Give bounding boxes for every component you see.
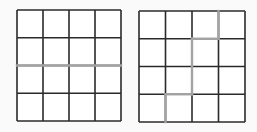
grid-cell	[43, 93, 69, 121]
grid-cell	[95, 10, 121, 38]
grid-cell	[192, 11, 219, 39]
grid-cell	[166, 11, 193, 39]
grid-cell	[219, 39, 246, 67]
grid-cell	[219, 11, 246, 39]
grid-cell	[95, 66, 121, 94]
grid-cell	[69, 93, 95, 121]
grid-cell	[17, 66, 43, 94]
grid-cell	[139, 39, 166, 67]
grid-cell	[43, 66, 69, 94]
grid-cell	[192, 94, 219, 122]
grid-cell	[139, 11, 166, 39]
grid-cell	[139, 67, 166, 95]
left-grid	[17, 10, 121, 121]
grid-cell	[166, 94, 193, 122]
grid-cell	[166, 39, 193, 67]
grid-cell	[69, 10, 95, 38]
grid-cell	[17, 10, 43, 38]
grid-cell	[192, 39, 219, 67]
grid-cell	[219, 94, 246, 122]
grid-cell	[43, 38, 69, 66]
grid-cell	[192, 67, 219, 95]
grid-cell	[69, 66, 95, 94]
grid-cell	[17, 38, 43, 66]
grid-cell	[17, 93, 43, 121]
grid-cell	[139, 94, 166, 122]
grid-cell	[95, 93, 121, 121]
grid-cell	[95, 38, 121, 66]
right-grid	[139, 11, 245, 122]
grid-cell	[69, 38, 95, 66]
grid-cell	[219, 67, 246, 95]
grid-cell	[166, 67, 193, 95]
grid-cell	[43, 10, 69, 38]
diagram-canvas	[0, 0, 257, 132]
